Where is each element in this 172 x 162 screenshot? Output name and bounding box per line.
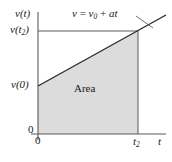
y-tick-label-v0: v(0): [11, 79, 29, 90]
y-tick-label-vt2: v(t2): [10, 24, 29, 37]
x-tick-label-t2: t2: [133, 136, 140, 149]
y-axis-label: v(t): [15, 8, 30, 19]
x-origin-label: 0: [35, 135, 41, 146]
velocity-time-figure: v(t) v(t2) v(0) 0 0 t2 t v = v0 + at Are…: [0, 0, 172, 162]
equation-annotation: v = v0 + at: [72, 8, 118, 21]
x-axis-label: t: [158, 136, 161, 147]
area-label: Area: [74, 83, 95, 94]
y-origin-label: 0: [28, 124, 34, 135]
